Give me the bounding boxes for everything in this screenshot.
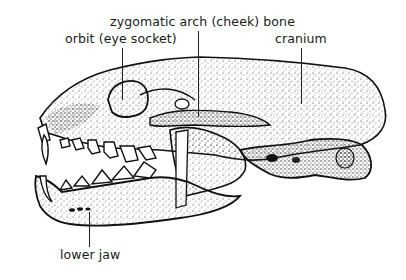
label-lower-jaw: lower jaw (60, 249, 120, 262)
orbit-shape (108, 81, 148, 117)
label-orbit: orbit (eye socket) (65, 33, 177, 46)
skull-illustration (0, 0, 406, 280)
skull-diagram: zygomatic arch (cheek) bone orbit (eye s… (0, 0, 406, 280)
label-zygomatic-arch: zygomatic arch (cheek) bone (110, 16, 295, 29)
leader-line-lower-jaw (89, 212, 90, 247)
leader-line-orbit (122, 48, 123, 100)
leader-line-cranium (301, 48, 302, 104)
leader-line-zygomatic-arch (198, 31, 199, 117)
label-cranium: cranium (275, 33, 327, 46)
